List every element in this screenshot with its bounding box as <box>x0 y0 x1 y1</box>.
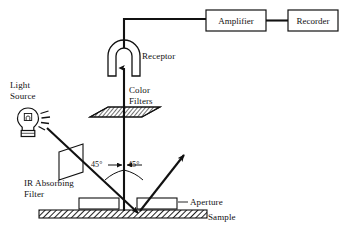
sample-label: Sample <box>208 212 236 223</box>
wire-receptor-to-amplifier <box>124 19 206 48</box>
light-source-icon <box>18 108 51 137</box>
optical-schematic-diagram: Light Source Receptor Color Filters IR A… <box>0 0 342 231</box>
recorder-label: Recorder <box>288 10 338 31</box>
ir-absorbing-filter-plate <box>59 144 83 180</box>
angle-indicator-left <box>105 165 124 180</box>
aperture-left <box>79 198 119 209</box>
light-source-label: Light Source <box>10 80 36 101</box>
amplifier-label: Amplifier <box>206 10 266 31</box>
sample-slab <box>39 210 207 218</box>
receptor-label: Receptor <box>142 51 175 62</box>
color-filters-label: Color Filters <box>129 85 153 106</box>
aperture-label: Aperture <box>190 197 223 208</box>
ir-absorbing-filter-label: IR Absorbing Filter <box>24 178 74 199</box>
angle-label-right: 45° <box>128 160 140 171</box>
angle-label-left: 45° <box>91 160 103 171</box>
